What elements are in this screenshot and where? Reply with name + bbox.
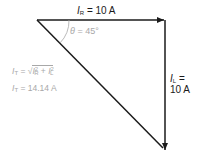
it-result: IT = 14.14 A: [12, 84, 57, 93]
angle-label: θ = 45°: [70, 27, 99, 36]
phasor-diagram: [0, 0, 197, 163]
angle-arc: [60, 20, 69, 43]
it-formula: IT = √I2R + I2L: [12, 66, 53, 76]
ir-label: IR = 10 A: [77, 6, 116, 16]
il-label: IL = 10 A: [170, 74, 190, 95]
